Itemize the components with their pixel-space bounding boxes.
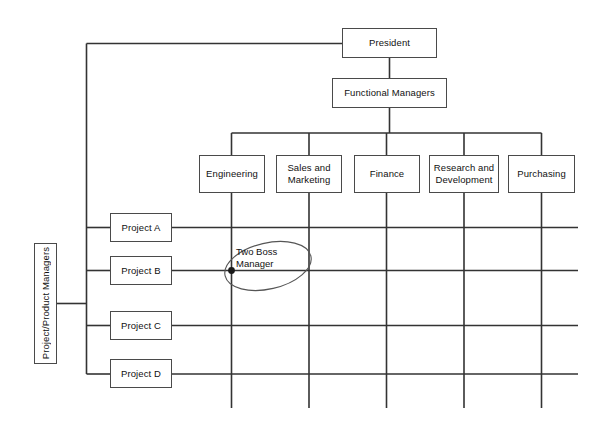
node-research-and-development-label-line1: Research and (434, 162, 494, 173)
node-project-a[interactable]: Project A (110, 213, 172, 242)
node-functional-managers[interactable]: Functional Managers (332, 78, 447, 108)
node-research-and-development[interactable]: Research and Development (429, 155, 499, 193)
two-boss-intersection-dot (228, 267, 235, 274)
node-research-and-development-label-line2: Development (435, 174, 492, 185)
node-project-c-label: Project C (121, 320, 161, 331)
node-president[interactable]: President (342, 28, 437, 58)
node-purchasing[interactable]: Purchasing (508, 155, 575, 193)
node-sales-and-marketing-label-line1: Sales and (287, 162, 330, 173)
node-purchasing-label: Purchasing (517, 168, 566, 179)
node-project-d-label: Project D (121, 368, 161, 379)
side-label-text: Project/Product Managers (40, 247, 51, 359)
node-sales-and-marketing-label-line2: Marketing (288, 174, 331, 185)
node-project-b[interactable]: Project B (110, 256, 172, 285)
side-label-project-product-managers: Project/Product Managers (34, 243, 57, 364)
node-project-a-label: Project A (122, 222, 161, 233)
node-engineering-label: Engineering (206, 168, 258, 179)
node-project-c[interactable]: Project C (110, 311, 172, 340)
node-project-d[interactable]: Project D (110, 359, 172, 388)
annotation-two-boss-manager-line2: Manager (236, 258, 274, 269)
node-finance-label: Finance (370, 168, 405, 179)
annotation-two-boss-manager: Two Boss Manager (236, 246, 277, 270)
connector-lines (0, 0, 606, 425)
node-project-b-label: Project B (121, 265, 160, 276)
node-president-label: President (369, 37, 410, 48)
node-engineering[interactable]: Engineering (199, 155, 265, 193)
node-finance[interactable]: Finance (354, 155, 420, 193)
matrix-org-chart: President Functional Managers Engineerin… (0, 0, 606, 425)
node-functional-managers-label: Functional Managers (344, 87, 435, 98)
annotation-two-boss-manager-line1: Two Boss (236, 246, 277, 257)
node-sales-and-marketing[interactable]: Sales and Marketing (276, 155, 342, 193)
